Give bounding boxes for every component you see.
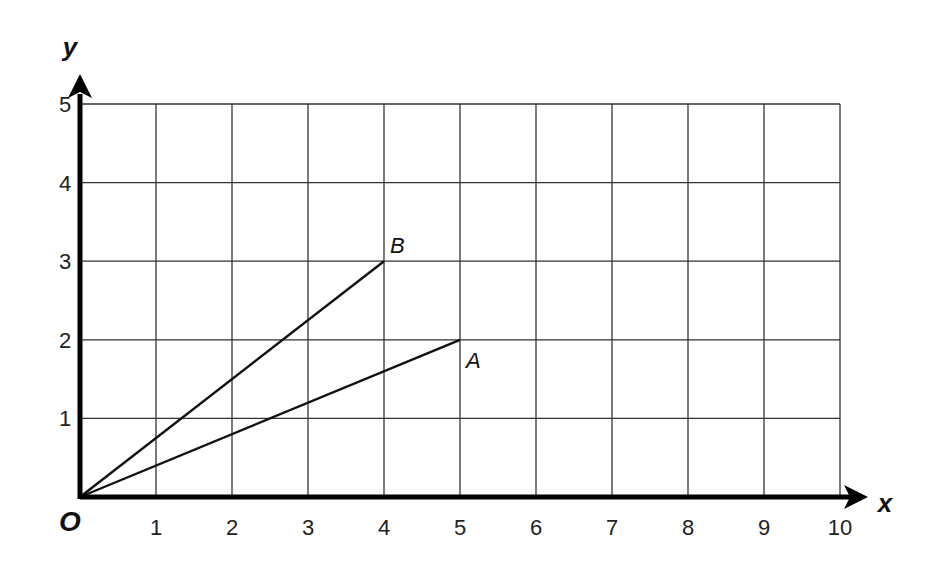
y-tick-label: 5	[59, 92, 71, 117]
y-tick-label: 1	[59, 406, 71, 431]
x-tick-label: 6	[530, 515, 542, 540]
origin-label: O	[59, 506, 81, 537]
y-tick-label: 3	[59, 249, 71, 274]
x-tick-label: 3	[302, 515, 314, 540]
grid-lines	[80, 104, 840, 497]
x-tick-label: 4	[378, 515, 390, 540]
x-tick-label: 8	[682, 515, 694, 540]
x-tick-label: 2	[226, 515, 238, 540]
x-axis-label: x	[876, 488, 894, 518]
y-axis-label: y	[61, 32, 79, 62]
x-tick-label: 1	[150, 515, 162, 540]
coordinate-grid: 1234567891012345xyOBA	[0, 0, 945, 571]
point-label-b: B	[390, 233, 405, 258]
x-tick-label: 7	[606, 515, 618, 540]
y-tick-label: 4	[59, 171, 71, 196]
point-label-a: A	[464, 348, 481, 373]
y-tick-label: 2	[59, 328, 71, 353]
x-tick-label: 9	[758, 515, 770, 540]
x-tick-label: 10	[828, 515, 852, 540]
x-tick-label: 5	[454, 515, 466, 540]
